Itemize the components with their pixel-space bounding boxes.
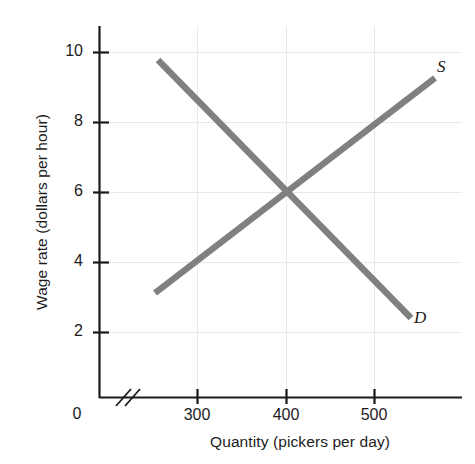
demand-curve-label: D bbox=[414, 308, 426, 328]
x-tick-label-400: 400 bbox=[256, 406, 316, 424]
vertical-gridlines bbox=[198, 26, 375, 397]
supply-demand-chart: Wage rate (dollars per hour) Quantity (p… bbox=[0, 0, 475, 464]
y-tick-label-2: 2 bbox=[49, 322, 83, 340]
y-tick-label-6: 6 bbox=[49, 182, 83, 200]
supply-curve-label: S bbox=[437, 57, 446, 77]
x-axis-title: Quantity (pickers per day) bbox=[210, 433, 390, 451]
x-tick-label-500: 500 bbox=[344, 406, 404, 424]
y-tick-label-10: 10 bbox=[49, 42, 83, 60]
x-tick-label-300: 300 bbox=[167, 406, 227, 424]
y-tick-label-8: 8 bbox=[49, 112, 83, 130]
chart-plot-area bbox=[0, 0, 475, 464]
y-tick-marks bbox=[93, 53, 109, 333]
demand-curve bbox=[158, 60, 411, 318]
origin-label: 0 bbox=[62, 405, 92, 423]
y-tick-label-4: 4 bbox=[49, 252, 83, 270]
